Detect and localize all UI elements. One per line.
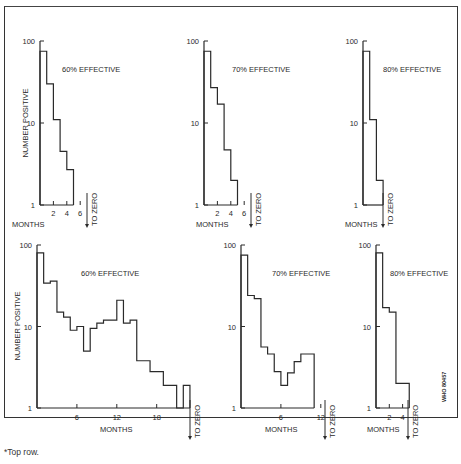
to-zero-label: TO ZERO [254,193,263,226]
x-axis-title: MONTHS [12,220,45,229]
x-tick-label: 2 [215,209,219,218]
y-tick-label: 100 [19,241,32,250]
x-tick-label: 6 [75,413,79,422]
step-line [204,51,238,205]
to-zero-label: TO ZERO [386,193,395,226]
panel-title: 60% EFFECTIVE [81,269,139,278]
y-tick-label: 1 [28,404,32,413]
step-line [363,51,383,205]
x-axis-title: MONTHS [265,425,298,434]
arrow-head-icon [85,224,89,228]
y-tick-label: 1 [232,404,236,413]
y-tick-label: 10 [350,119,358,128]
x-axis-title: MONTHS [345,220,378,229]
y-tick-label: 100 [186,37,199,46]
y-axis-title: NUMBER POSITIVE [21,88,30,157]
y-axis-title: NUMBER POSITIVE [13,291,22,360]
panel-title: 80% EFFECTIVE [383,65,441,74]
x-axis-title: MONTHS [196,220,229,229]
x-tick-label: 4 [401,413,405,422]
y-tick-label: 1 [367,404,371,413]
to-zero-label: TO ZERO [411,405,420,438]
x-tick-label: 6 [242,209,246,218]
panel-title: 80% EFFECTIVE [390,269,448,278]
arrow-head-icon [249,224,253,228]
step-line [241,255,314,408]
chart-panel-top-2: 11010024670% EFFECTIVEMONTHSTO ZERO [186,37,290,229]
to-zero-label: TO ZERO [193,405,202,438]
x-tick-label: 6 [279,413,283,422]
x-tick-label: 4 [229,209,233,218]
panel-title: 70% EFFECTIVE [232,65,290,74]
y-tick-label: 10 [24,323,32,332]
x-axis-title: MONTHS [367,425,400,434]
y-tick-label: 10 [191,119,199,128]
panel-title: 60% EFFECTIVE [62,65,120,74]
y-tick-label: 1 [31,201,35,210]
x-tick-label: 2 [387,413,391,422]
x-tick-label: 18 [153,413,161,422]
step-line [40,51,74,205]
y-tick-label: 1 [354,201,358,210]
y-tick-label: 100 [22,37,35,46]
chart-panel-bottom-2: 11010061270% EFFECTIVEMONTHSTO ZERO [223,241,337,440]
y-tick-label: 100 [223,241,236,250]
arrow-head-icon [381,224,385,228]
to-zero-label: TO ZERO [328,405,337,438]
x-tick-label: 6 [78,209,82,218]
x-tick-label: 4 [65,209,69,218]
figure-code: WHO 80457 [441,372,447,402]
y-tick-label: 10 [228,323,236,332]
y-tick-label: 100 [358,241,371,250]
chart-panel-top-3: 11010080% EFFECTIVEMONTHSTO ZERO [345,37,441,229]
x-tick-label: 12 [113,413,121,422]
footnote: *Top row. [4,447,39,457]
x-axis-title: MONTHS [100,425,133,434]
arrow-head-icon [406,436,410,440]
figure-canvas: 11010024660% EFFECTIVENUMBER POSITIVEMON… [0,0,461,464]
arrow-head-icon [323,436,327,440]
arrow-head-icon [188,436,192,440]
to-zero-label: TO ZERO [90,193,99,226]
x-tick-label: 2 [51,209,55,218]
y-tick-label: 10 [363,323,371,332]
chart-panel-top-1: 11010024660% EFFECTIVENUMBER POSITIVEMON… [12,37,120,229]
chart-panel-bottom-1: 1101006121860% EFFECTIVENUMBER POSITIVEM… [13,241,202,440]
panel-title: 70% EFFECTIVE [272,269,330,278]
x-tick-label: 12 [317,413,325,422]
chart-panel-bottom-3: 1101002480% EFFECTIVEMONTHSTO ZERO [358,241,448,440]
y-tick-label: 1 [195,201,199,210]
y-tick-label: 100 [345,37,358,46]
